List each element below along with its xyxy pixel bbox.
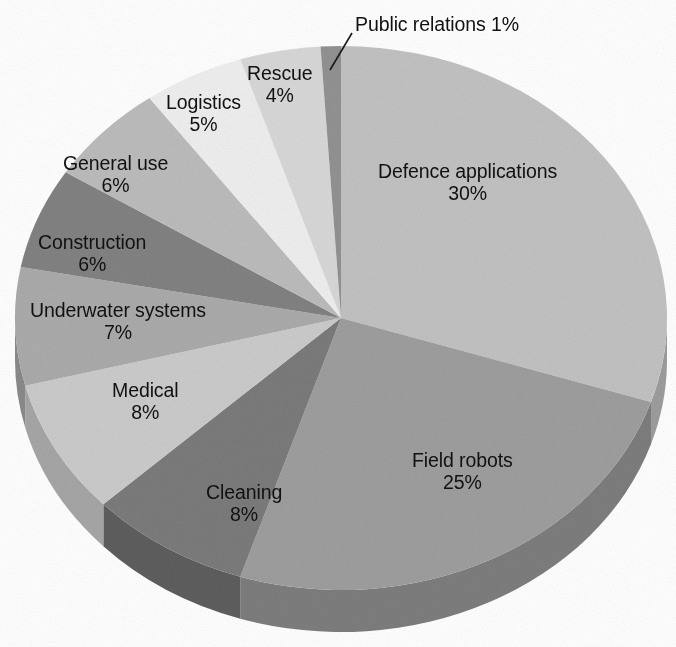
pie-label-defence-applications: Defence applications30% <box>378 160 557 204</box>
pie-label-value: 8% <box>112 401 179 423</box>
pie-label-name: General use <box>63 152 168 174</box>
pie-label-general-use: General use6% <box>63 152 168 196</box>
pie-label-name: Logistics <box>166 91 241 113</box>
pie-label-value: 6% <box>38 253 146 275</box>
pie-label-value: 4% <box>247 84 313 106</box>
pie-label-value: 5% <box>166 113 241 135</box>
pie-label-medical: Medical8% <box>112 379 179 423</box>
pie-label-name: Underwater systems <box>30 299 206 321</box>
pie-label-name: Medical <box>112 379 179 401</box>
pie-label-value: 1% <box>486 13 519 35</box>
pie-label-underwater-systems: Underwater systems7% <box>30 299 206 343</box>
pie-label-value: 8% <box>206 503 282 525</box>
pie-label-rescue: Rescue4% <box>247 62 313 106</box>
pie-label-value: 6% <box>63 174 168 196</box>
pie-label-logistics: Logistics5% <box>166 91 241 135</box>
pie-label-public-relations: Public relations 1% <box>355 13 519 35</box>
pie-label-name: Rescue <box>247 62 313 84</box>
pie-label-name: Field robots <box>412 449 513 471</box>
pie-label-value: 25% <box>412 471 513 493</box>
pie-label-name: Construction <box>38 231 146 253</box>
pie-label-value: 7% <box>30 321 206 343</box>
pie-label-name: Defence applications <box>378 160 557 182</box>
pie-label-cleaning: Cleaning8% <box>206 481 282 525</box>
pie-label-value: 30% <box>378 182 557 204</box>
pie-label-construction: Construction6% <box>38 231 146 275</box>
pie-label-name: Public relations <box>355 13 486 35</box>
pie-label-name: Cleaning <box>206 481 282 503</box>
pie-label-field-robots: Field robots25% <box>412 449 513 493</box>
pie-chart: Defence applications30%Field robots25%Cl… <box>0 0 676 647</box>
